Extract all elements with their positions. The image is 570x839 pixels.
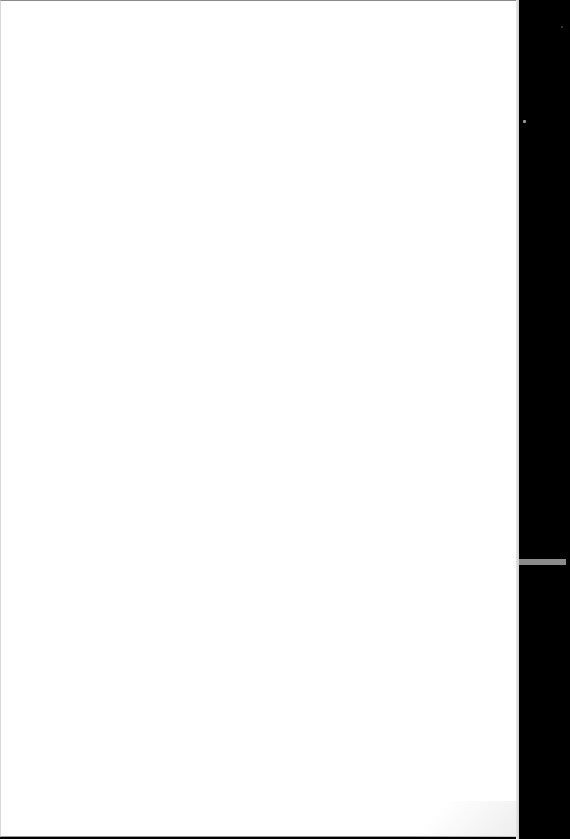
blank-document-page (0, 0, 518, 837)
scanner-margin (519, 0, 570, 839)
scan-speck (523, 120, 526, 123)
paper-shadow (401, 801, 517, 837)
margin-strip (519, 559, 566, 565)
scan-speck (561, 26, 563, 28)
